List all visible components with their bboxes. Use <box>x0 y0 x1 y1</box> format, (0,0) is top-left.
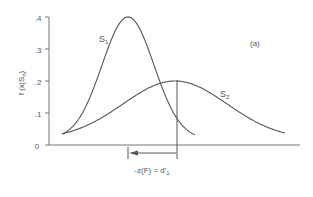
y-tick-label-3: .3 <box>35 46 42 55</box>
curve-s2 <box>62 81 285 134</box>
y-tick-label-4: .4 <box>35 14 42 23</box>
y-tick-label-2: .2 <box>35 78 42 87</box>
y-axis-label: f (x|Sn) <box>17 70 27 95</box>
signal-detection-chart: 0 .1 .2 .3 .4 f (x|Sn) S1 S2 (a) -z(F) =… <box>0 0 313 197</box>
d-prime-arrow-head <box>129 151 138 156</box>
panel-label: (a) <box>250 39 260 48</box>
curve-s1 <box>62 17 195 135</box>
y-tick-label-0: 0 <box>35 142 40 151</box>
y-tick-label-1: .1 <box>35 110 42 119</box>
curve-label-s2: S2 <box>220 89 230 100</box>
d-prime-label: -z(F) = d'1 <box>134 166 170 176</box>
svg-text:f (x|Sn): f (x|Sn) <box>17 70 27 95</box>
curve-label-s1: S1 <box>99 34 109 45</box>
